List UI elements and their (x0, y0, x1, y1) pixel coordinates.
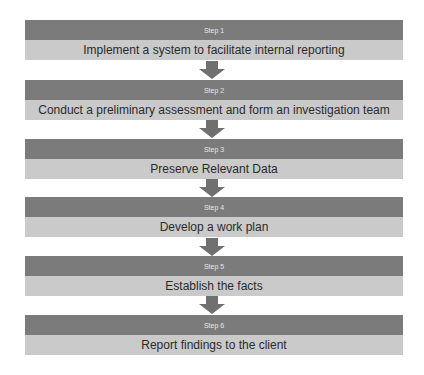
step-6: Step 6 Report findings to the client (25, 315, 403, 355)
step-3: Step 3 Preserve Relevant Data (25, 139, 403, 179)
step-label: Step 4 (25, 197, 403, 217)
step-2: Step 2 Conduct a preliminary assessment … (25, 80, 403, 120)
step-text: Conduct a preliminary assessment and for… (25, 100, 403, 120)
down-arrow-icon (199, 296, 225, 314)
step-label: Step 6 (25, 315, 403, 335)
step-4: Step 4 Develop a work plan (25, 197, 403, 237)
step-text: Develop a work plan (25, 217, 403, 237)
step-text: Preserve Relevant Data (25, 159, 403, 179)
down-arrow-icon (199, 61, 225, 79)
step-label: Step 5 (25, 256, 403, 276)
step-label: Step 3 (25, 139, 403, 159)
step-text: Establish the facts (25, 276, 403, 296)
down-arrow-icon (199, 179, 225, 197)
down-arrow-icon (199, 120, 225, 138)
step-text: Implement a system to facilitate interna… (25, 40, 403, 60)
down-arrow-icon (199, 238, 225, 256)
step-1: Step 1 Implement a system to facilitate … (25, 20, 403, 60)
step-5: Step 5 Establish the facts (25, 256, 403, 296)
step-label: Step 1 (25, 20, 403, 40)
step-text: Report findings to the client (25, 335, 403, 355)
step-label: Step 2 (25, 80, 403, 100)
